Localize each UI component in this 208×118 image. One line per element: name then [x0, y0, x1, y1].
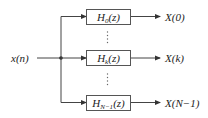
filter-label-h0: H0(z) — [97, 11, 120, 23]
filter-box-h0: H0(z) — [86, 9, 131, 25]
filter-bank-diagram: x(n) H0(z) Hk(z) HN−1(z) X(0) X(k) X(N−1… — [0, 0, 208, 118]
output-label-n1: X(N−1) — [165, 97, 199, 109]
filter-label-hn1: HN−1(z) — [92, 97, 124, 109]
filter-label-hk: Hk(z) — [97, 52, 120, 64]
output-label-k: X(k) — [165, 52, 184, 64]
ellipsis-dots-upper — [107, 31, 108, 43]
filter-box-hn1: HN−1(z) — [86, 95, 131, 111]
output-label-0: X(0) — [165, 11, 185, 23]
input-label: x(n) — [11, 52, 29, 64]
ellipsis-dots-lower — [107, 73, 108, 85]
filter-box-hk: Hk(z) — [86, 50, 131, 66]
